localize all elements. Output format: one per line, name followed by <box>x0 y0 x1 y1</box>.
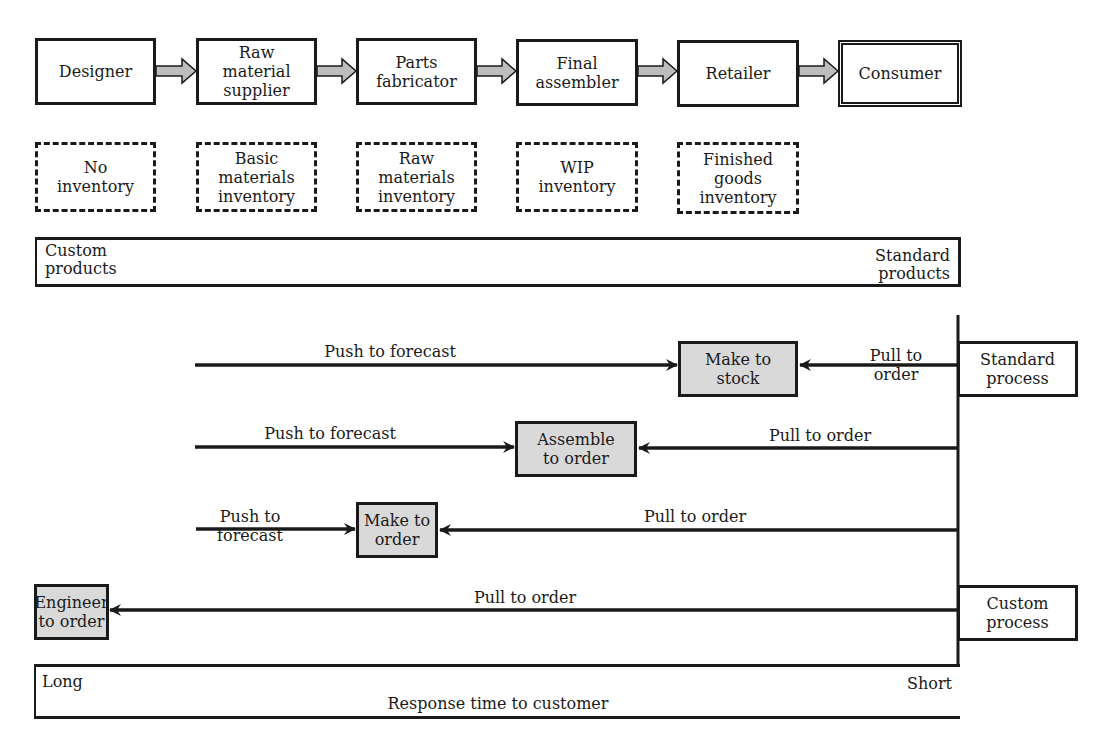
long-label: Long <box>42 673 83 691</box>
short-label: Short <box>907 675 952 693</box>
make-to-stock-box: Make to stock <box>678 341 798 397</box>
flow-arrow-icon <box>317 59 356 83</box>
inventory-wip: WIP inventory <box>516 142 638 212</box>
stage-raw-material-supplier: Raw material supplier <box>196 38 317 105</box>
standard-products-label: Standard products <box>875 247 950 283</box>
flow-arrow-icon <box>638 59 677 83</box>
inventory-none: No inventory <box>35 142 156 212</box>
mto-pull-label: Pull to order <box>600 507 790 526</box>
response-time-band: Long Short Response time to customer <box>34 664 960 719</box>
stage-designer: Designer <box>35 38 156 105</box>
custom-products-label: Custom products <box>45 242 117 278</box>
flow-arrow-icon <box>477 59 516 83</box>
inventory-finished-goods: Finished goods inventory <box>677 142 799 214</box>
stage-consumer: Consumer <box>838 40 962 107</box>
standard-process-box: Standard process <box>957 341 1078 397</box>
mto-push-label: Push to forecast <box>195 507 305 545</box>
eto-pull-label: Pull to order <box>425 588 625 607</box>
engineer-to-order-box: Engineer to order <box>34 584 109 640</box>
make-to-order-box: Make to order <box>356 502 438 558</box>
assemble-to-order-box: Assemble to order <box>515 421 637 477</box>
response-time-caption: Response time to customer <box>36 695 960 713</box>
flow-arrow-icon <box>156 59 196 83</box>
stage-retailer: Retailer <box>677 40 799 107</box>
ato-pull-label: Pull to order <box>730 426 910 445</box>
flow-arrow-icon <box>799 59 838 83</box>
product-spectrum-band: Custom products Standard products <box>35 237 961 287</box>
stage-final-assembler: Final assembler <box>516 39 638 106</box>
custom-process-box: Custom process <box>957 585 1078 641</box>
inventory-raw-materials: Raw materials inventory <box>356 142 477 212</box>
mts-push-label: Push to forecast <box>300 342 480 361</box>
stage-parts-fabricator: Parts fabricator <box>356 38 477 105</box>
inventory-basic-materials: Basic materials inventory <box>196 142 317 212</box>
mts-pull-label: Pull to order <box>846 346 946 384</box>
ato-push-label: Push to forecast <box>240 424 420 443</box>
